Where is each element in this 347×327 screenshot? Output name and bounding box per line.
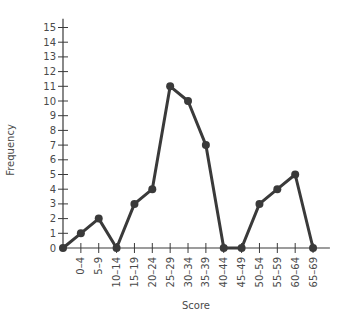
x-axis: 0–45–910–1415–1920–2425–2930–3435–3940–4… — [63, 243, 330, 287]
y-axis-title: Frequency — [5, 124, 16, 176]
data-point — [238, 244, 246, 252]
x-tick-label: 35–39 — [200, 257, 211, 287]
y-tick-label: 7 — [50, 140, 56, 151]
y-tick-label: 2 — [50, 213, 56, 224]
y-tick-label: 0 — [50, 243, 56, 254]
x-tick-label: 40–44 — [218, 257, 229, 287]
data-point — [291, 171, 299, 179]
y-tick-label: 14 — [43, 37, 56, 48]
y-tick-label: 9 — [50, 110, 56, 121]
x-tick-label: 0–4 — [75, 257, 86, 275]
x-tick-label: 5–9 — [93, 257, 104, 275]
y-tick-label: 4 — [50, 184, 56, 195]
y-tick-label: 5 — [50, 169, 56, 180]
data-point — [184, 97, 192, 105]
y-tick-label: 8 — [50, 125, 56, 136]
data-point — [95, 215, 103, 223]
x-tick-label: 10–14 — [111, 257, 122, 287]
y-axis: 0123456789101112131415 — [43, 19, 68, 254]
x-tick-label: 50–54 — [254, 257, 265, 287]
x-tick-label: 20–24 — [147, 257, 158, 287]
x-tick-label: 15–19 — [129, 257, 140, 287]
y-tick-label: 6 — [50, 154, 56, 165]
x-tick-label: 60–64 — [290, 257, 301, 287]
data-point — [59, 244, 67, 252]
data-point — [148, 185, 156, 193]
x-axis-title: Score — [182, 300, 210, 311]
frequency-line — [63, 86, 313, 248]
data-series — [59, 82, 317, 252]
data-point — [202, 141, 210, 149]
data-point — [273, 185, 281, 193]
y-tick-label: 3 — [50, 198, 56, 209]
x-tick-label: 65–69 — [308, 257, 319, 287]
data-point — [130, 200, 138, 208]
data-point — [220, 244, 228, 252]
y-tick-label: 12 — [43, 66, 56, 77]
frequency-polygon-chart: 0123456789101112131415 0–45–910–1415–192… — [0, 0, 347, 327]
data-point — [77, 229, 85, 237]
data-point — [166, 82, 174, 90]
y-tick-label: 1 — [50, 228, 56, 239]
y-tick-label: 13 — [43, 51, 56, 62]
y-tick-label: 11 — [43, 81, 56, 92]
data-point — [113, 244, 121, 252]
y-tick-label: 10 — [43, 96, 56, 107]
x-tick-label: 25–29 — [165, 257, 176, 287]
data-point — [309, 244, 317, 252]
data-point — [255, 200, 263, 208]
x-tick-label: 30–34 — [183, 257, 194, 287]
y-tick-label: 15 — [43, 22, 56, 33]
x-tick-label: 55–59 — [272, 257, 283, 287]
x-tick-label: 45–49 — [236, 257, 247, 287]
